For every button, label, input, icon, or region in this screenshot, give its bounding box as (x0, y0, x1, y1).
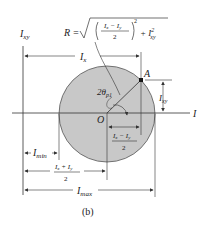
formula-right-paren (132, 22, 134, 40)
horizontal-axis-label: I (192, 108, 197, 119)
mohr-circle-diagram: Ixy I O A R = Ix − Iy 2 2 + I2xy Ix Ixy … (0, 0, 214, 227)
imin-label: Imin (32, 147, 47, 160)
origin-label: O (97, 114, 104, 125)
formula-denominator: 2 (113, 33, 117, 41)
formula-plus-term: + I2xy (140, 27, 156, 40)
r-formula-lhs: R = (63, 27, 79, 38)
figure-caption: (b) (82, 206, 94, 218)
formula-numerator: Ix − Iy (103, 22, 122, 30)
mohr-circle-figure: Ixy I O A R = Ix − Iy 2 2 + I2xy Ix Ixy … (0, 0, 214, 227)
avg-denominator: 2 (64, 175, 68, 183)
formula-left-paren (96, 22, 98, 40)
half-diff-denominator: 2 (122, 144, 126, 152)
imax-label: Imax (76, 185, 93, 198)
vertical-axis-label: Ixy (19, 28, 30, 41)
formula-exponent: 2 (134, 18, 137, 24)
avg-numerator: Ix + Iy (54, 163, 73, 171)
ix-label: Ix (79, 51, 87, 64)
point-a-label: A (143, 68, 151, 79)
